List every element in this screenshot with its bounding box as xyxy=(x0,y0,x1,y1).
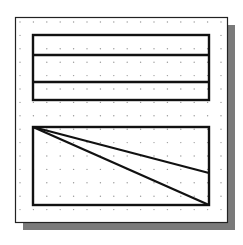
grid-dot xyxy=(73,155,74,156)
grid-dot xyxy=(86,155,87,156)
grid-dot xyxy=(33,102,34,103)
sketch-canvas[interactable] xyxy=(0,0,243,245)
grid-dot xyxy=(86,196,87,197)
grid-dot xyxy=(60,21,61,22)
grid-dot xyxy=(167,142,168,143)
grid-dot xyxy=(86,209,87,210)
grid-dot xyxy=(19,115,20,116)
grid-dot xyxy=(60,182,61,183)
grid-dot xyxy=(100,129,101,130)
grid-dot xyxy=(19,21,20,22)
grid-dot xyxy=(127,102,128,103)
grid-dot xyxy=(19,169,20,170)
grid-dot xyxy=(180,75,181,76)
grid-dot xyxy=(194,129,195,130)
grid-dot xyxy=(127,182,128,183)
grid-dot xyxy=(46,48,47,49)
grid-dot xyxy=(19,35,20,36)
grid-dot xyxy=(220,196,221,197)
grid-dot xyxy=(180,129,181,130)
grid-dot xyxy=(33,21,34,22)
grid-dot xyxy=(220,88,221,89)
grid-dot xyxy=(113,75,114,76)
grid-dot xyxy=(153,129,154,130)
grid-dot xyxy=(86,88,87,89)
grid-dot xyxy=(140,209,141,210)
grid-dot xyxy=(140,182,141,183)
grid-dot xyxy=(86,75,87,76)
grid-dot xyxy=(153,88,154,89)
grid-dot xyxy=(86,169,87,170)
grid-dot xyxy=(113,115,114,116)
grid-dot xyxy=(140,62,141,63)
grid-dot xyxy=(60,209,61,210)
grid-dot xyxy=(207,102,208,103)
grid-dot xyxy=(60,196,61,197)
grid-dot xyxy=(113,182,114,183)
grid-dot xyxy=(180,169,181,170)
grid-dot xyxy=(100,88,101,89)
grid-dot xyxy=(153,115,154,116)
grid-dot xyxy=(86,115,87,116)
grid-dot xyxy=(73,129,74,130)
grid-dot xyxy=(86,48,87,49)
grid-dot xyxy=(180,88,181,89)
grid-dot xyxy=(113,209,114,210)
grid-dot xyxy=(180,155,181,156)
grid-dot xyxy=(60,129,61,130)
grid-dot xyxy=(180,48,181,49)
grid-dot xyxy=(180,196,181,197)
grid-dot xyxy=(19,209,20,210)
grid-dot xyxy=(207,21,208,22)
grid-dot xyxy=(60,62,61,63)
grid-dot xyxy=(73,209,74,210)
grid-dot xyxy=(46,196,47,197)
grid-dot xyxy=(220,62,221,63)
grid-dot xyxy=(167,88,168,89)
grid-dot xyxy=(220,142,221,143)
grid-dot xyxy=(220,115,221,116)
grid-dot xyxy=(86,182,87,183)
grid-dot xyxy=(207,115,208,116)
grid-dot xyxy=(60,169,61,170)
grid-dot xyxy=(113,102,114,103)
grid-dot xyxy=(194,21,195,22)
grid-dot xyxy=(100,169,101,170)
grid-dot xyxy=(73,102,74,103)
grid-dot xyxy=(33,115,34,116)
grid-dot xyxy=(194,115,195,116)
grid-dot xyxy=(73,62,74,63)
grid-dot xyxy=(100,182,101,183)
grid-dot xyxy=(100,196,101,197)
grid-dot xyxy=(86,129,87,130)
grid-dot xyxy=(140,48,141,49)
grid-dot xyxy=(220,102,221,103)
grid-dot xyxy=(46,75,47,76)
grid-dot xyxy=(167,196,168,197)
grid-dot xyxy=(140,75,141,76)
grid-dot xyxy=(220,209,221,210)
grid-dot xyxy=(33,209,34,210)
grid-dot xyxy=(167,62,168,63)
grid-dot xyxy=(60,142,61,143)
grid-dot xyxy=(140,196,141,197)
grid-dot xyxy=(113,21,114,22)
grid-dot xyxy=(73,21,74,22)
grid-dot xyxy=(194,155,195,156)
grid-dot xyxy=(220,129,221,130)
grid-dot xyxy=(127,75,128,76)
grid-dot xyxy=(113,155,114,156)
grid-dot xyxy=(100,75,101,76)
grid-dot xyxy=(140,115,141,116)
grid-dot xyxy=(153,209,154,210)
grid-dot xyxy=(194,142,195,143)
grid-dot xyxy=(73,142,74,143)
grid-dot xyxy=(60,48,61,49)
grid-dot xyxy=(167,209,168,210)
grid-dot xyxy=(207,209,208,210)
grid-dot xyxy=(46,209,47,210)
grid-dot xyxy=(153,62,154,63)
grid-dot xyxy=(194,102,195,103)
grid-dot xyxy=(140,142,141,143)
grid-dot xyxy=(180,21,181,22)
